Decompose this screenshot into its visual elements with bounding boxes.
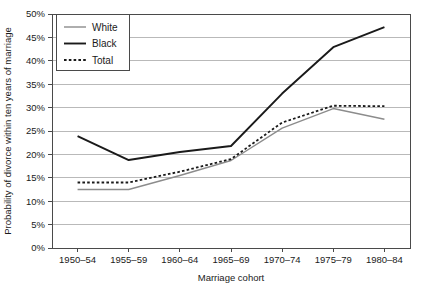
x-tick-label: 1965–69: [213, 254, 250, 265]
x-tick-label: 1980–84: [366, 254, 403, 265]
y-tick-label: 40%: [26, 55, 46, 66]
legend-label-white: White: [92, 22, 118, 33]
y-axis-title: Probability of divorce within ten years …: [2, 27, 13, 235]
chart-container: 0%5%10%15%20%25%30%35%40%45%50% 1950–541…: [0, 0, 422, 288]
y-tick-label: 5%: [31, 219, 45, 230]
x-axis-ticks: 1950–541955–591960–641965–691970–741975–…: [59, 248, 403, 265]
x-axis-title: Marriage cohort: [198, 272, 265, 283]
x-tick-label: 1950–54: [59, 254, 96, 265]
y-tick-label: 15%: [26, 172, 46, 183]
y-tick-label: 45%: [26, 32, 46, 43]
y-tick-label: 0%: [31, 242, 45, 253]
chart-legend: WhiteBlackTotal: [56, 14, 129, 70]
x-tick-label: 1960–64: [161, 254, 198, 265]
y-tick-label: 30%: [26, 102, 46, 113]
divorce-probability-line-chart: 0%5%10%15%20%25%30%35%40%45%50% 1950–541…: [0, 0, 422, 288]
y-tick-label: 35%: [26, 79, 46, 90]
legend-label-black: Black: [92, 38, 117, 49]
y-tick-label: 20%: [26, 149, 46, 160]
x-tick-label: 1955–59: [110, 254, 147, 265]
x-tick-label: 1970–74: [264, 254, 301, 265]
y-tick-label: 10%: [26, 196, 46, 207]
x-tick-label: 1975–79: [315, 254, 352, 265]
y-axis-ticks: 0%5%10%15%20%25%30%35%40%45%50%: [26, 8, 52, 253]
y-tick-label: 50%: [26, 8, 46, 19]
legend-label-total: Total: [92, 55, 113, 66]
y-tick-label: 25%: [26, 125, 46, 136]
